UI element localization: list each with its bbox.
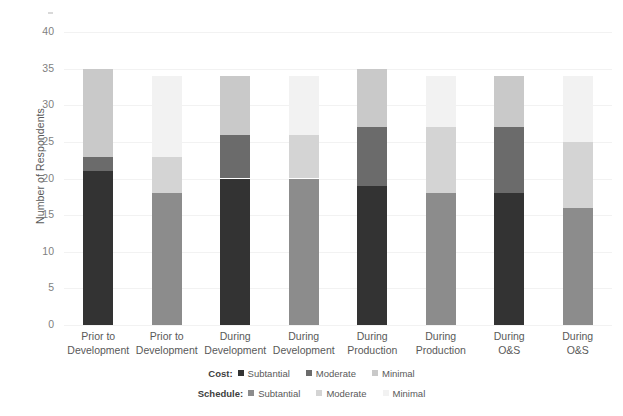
bar-segment-cost-minimal xyxy=(220,76,250,135)
gridline-0 xyxy=(64,325,612,326)
bar-segment-cost-minimal xyxy=(83,69,113,157)
x-tick-label: DuringProduction xyxy=(407,330,475,357)
y-axis-tick-labels: 0510152025303540 xyxy=(12,18,54,325)
bar-segment-schedule-minimal xyxy=(289,76,319,135)
bar-segment-cost-substantial xyxy=(83,171,113,325)
x-tick-label: DuringO&S xyxy=(544,330,612,357)
legend-row-cost: Cost:SubtantialModerateMinimal xyxy=(0,364,623,382)
x-tick-label: Prior toDevelopment xyxy=(133,330,201,357)
x-axis-tick-labels: Prior toDevelopmentPrior toDevelopmentDu… xyxy=(64,330,612,364)
y-tick-30: 30 xyxy=(14,98,54,110)
top-axis-artifact xyxy=(48,12,53,14)
bar-segment-cost-minimal xyxy=(357,69,387,128)
legend-entry-moderate[interactable]: Moderate xyxy=(306,368,356,379)
y-tick-20: 20 xyxy=(14,172,54,184)
bar-column xyxy=(220,18,250,325)
gridline-30 xyxy=(64,105,612,106)
x-tick-label-line: Development xyxy=(133,344,201,358)
x-tick-label-line: During xyxy=(270,330,338,344)
legend-row-title: Cost: xyxy=(208,368,232,379)
x-tick-label-line: Prior to xyxy=(64,330,132,344)
legend-swatch-icon xyxy=(238,370,244,376)
bar-segment-cost-moderate xyxy=(494,127,524,193)
bar-segment-schedule-substantial xyxy=(152,193,182,325)
bar-segment-schedule-minimal xyxy=(152,76,182,157)
legend-entry-subtantial[interactable]: Subtantial xyxy=(238,368,290,379)
x-tick-label-line: Prior to xyxy=(133,330,201,344)
bar-segment-schedule-moderate xyxy=(426,127,456,193)
bar-segment-schedule-moderate xyxy=(563,142,593,208)
bar-segment-schedule-moderate xyxy=(152,157,182,194)
bar-segment-cost-minimal xyxy=(494,76,524,127)
x-tick-label: DuringDevelopment xyxy=(201,330,269,357)
y-tick-25: 25 xyxy=(14,135,54,147)
bar-column xyxy=(357,18,387,325)
gridline-35 xyxy=(64,69,612,70)
stacked-bar-chart: Number of Respondents 0510152025303540 P… xyxy=(0,0,623,416)
x-tick-label-line: Development xyxy=(201,344,269,358)
y-tick-0: 0 xyxy=(14,318,54,330)
y-tick-10: 10 xyxy=(14,245,54,257)
x-tick-label-line: During xyxy=(201,330,269,344)
bar-column xyxy=(152,18,182,325)
gridline-25 xyxy=(64,142,612,143)
bar-segment-schedule-minimal xyxy=(426,76,456,127)
legend-entry-label: Subtantial xyxy=(248,368,290,379)
legend-row-schedule: Schedule:SubtantialModerateMinimal xyxy=(0,384,623,402)
bar-column xyxy=(563,18,593,325)
legend-entry-label: Minimal xyxy=(393,388,426,399)
x-tick-label: DuringO&S xyxy=(475,330,543,357)
plot-area xyxy=(64,18,612,325)
x-tick-label-line: O&S xyxy=(544,344,612,358)
bar-column xyxy=(426,18,456,325)
bar-segment-schedule-substantial xyxy=(426,193,456,325)
x-tick-label: DuringProduction xyxy=(338,330,406,357)
legend-entry-label: Moderate xyxy=(316,368,356,379)
bar-segment-cost-moderate xyxy=(83,157,113,172)
bar-segment-cost-substantial xyxy=(220,179,250,326)
gridline-15 xyxy=(64,215,612,216)
legend-entry-label: Subtantial xyxy=(258,388,300,399)
x-tick-label-line: During xyxy=(475,330,543,344)
gridline-10 xyxy=(64,252,612,253)
legend-swatch-icon xyxy=(383,390,389,396)
bar-segment-schedule-substantial xyxy=(289,179,319,326)
legend-entry-minimal[interactable]: Minimal xyxy=(383,388,426,399)
legend-row-title: Schedule: xyxy=(198,388,243,399)
chart-legend: Cost:SubtantialModerateMinimalSchedule:S… xyxy=(0,364,623,408)
legend-swatch-icon xyxy=(372,370,378,376)
legend-entry-subtantial[interactable]: Subtantial xyxy=(248,388,300,399)
y-tick-35: 35 xyxy=(14,62,54,74)
bar-column xyxy=(83,18,113,325)
y-tick-15: 15 xyxy=(14,208,54,220)
bar-segment-cost-moderate xyxy=(220,135,250,179)
legend-entry-minimal[interactable]: Minimal xyxy=(372,368,415,379)
x-tick-label-line: Development xyxy=(270,344,338,358)
x-tick-label: Prior toDevelopment xyxy=(64,330,132,357)
gridline-40 xyxy=(64,32,612,33)
x-tick-label-line: During xyxy=(338,330,406,344)
bar-segment-schedule-moderate xyxy=(289,135,319,179)
x-tick-label-line: Production xyxy=(338,344,406,358)
legend-entry-moderate[interactable]: Moderate xyxy=(316,388,366,399)
bar-segment-schedule-minimal xyxy=(563,76,593,142)
x-tick-label-line: Production xyxy=(407,344,475,358)
x-tick-label: DuringDevelopment xyxy=(270,330,338,357)
x-tick-label-line: Development xyxy=(64,344,132,358)
legend-swatch-icon xyxy=(248,390,254,396)
bar-segment-cost-substantial xyxy=(357,186,387,325)
gridline-5 xyxy=(64,288,612,289)
bar-column xyxy=(494,18,524,325)
x-tick-label-line: During xyxy=(407,330,475,344)
y-tick-5: 5 xyxy=(14,281,54,293)
y-tick-40: 40 xyxy=(14,25,54,37)
bar-column xyxy=(289,18,319,325)
legend-entry-label: Minimal xyxy=(382,368,415,379)
bar-segment-cost-moderate xyxy=(357,127,387,186)
bar-segment-cost-substantial xyxy=(494,193,524,325)
gridline-20 xyxy=(64,179,612,180)
legend-swatch-icon xyxy=(316,390,322,396)
x-tick-label-line: O&S xyxy=(475,344,543,358)
x-tick-label-line: During xyxy=(544,330,612,344)
legend-swatch-icon xyxy=(306,370,312,376)
